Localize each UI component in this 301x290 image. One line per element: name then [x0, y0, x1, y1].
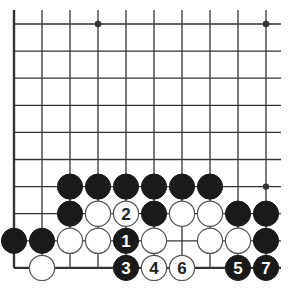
black-stone-disc: [169, 174, 194, 199]
black-stone: 5: [225, 255, 250, 280]
black-stone-disc: [85, 174, 110, 199]
move-number-label: 7: [261, 259, 270, 278]
black-stone: [169, 174, 194, 199]
move-number-label: 2: [121, 205, 130, 224]
white-stone: [225, 228, 250, 253]
white-stone: [169, 201, 194, 226]
stones: 2134657: [1, 174, 278, 281]
black-stone: 7: [253, 255, 278, 280]
move-number-label: 1: [121, 232, 130, 251]
black-stone: [57, 201, 82, 226]
star-point-icon: [263, 183, 269, 189]
black-stone: 1: [113, 228, 138, 253]
star-point-icon: [263, 21, 269, 27]
black-stone: [197, 174, 222, 199]
white-stone: 4: [141, 255, 166, 280]
black-stone: [29, 228, 54, 253]
black-stone-disc: [141, 174, 166, 199]
move-number-label: 6: [177, 259, 186, 278]
go-board: 2134657: [0, 0, 301, 290]
white-stone-disc: [57, 228, 82, 253]
black-stone-disc: [57, 201, 82, 226]
black-stone-disc: [113, 174, 138, 199]
white-stone-disc: [29, 255, 54, 280]
black-stone: [225, 201, 250, 226]
black-stone-disc: [29, 228, 54, 253]
black-stone: [253, 228, 278, 253]
white-stone: [141, 228, 166, 253]
black-stone: [1, 228, 26, 253]
black-stone-disc: [141, 201, 166, 226]
white-stone: [197, 228, 222, 253]
black-stone-disc: [253, 201, 278, 226]
white-stone: [29, 255, 54, 280]
black-stone: [141, 174, 166, 199]
move-number-label: 5: [233, 259, 242, 278]
black-stone-disc: [57, 174, 82, 199]
white-stone-disc: [197, 228, 222, 253]
black-stone: [253, 201, 278, 226]
black-stone: [57, 174, 82, 199]
move-number-label: 4: [149, 259, 159, 278]
black-stone-disc: [1, 228, 26, 253]
white-stone-disc: [141, 228, 166, 253]
white-stone: 6: [169, 255, 194, 280]
white-stone: [197, 201, 222, 226]
black-stone: [141, 201, 166, 226]
black-stone-disc: [253, 228, 278, 253]
black-stone-disc: [225, 201, 250, 226]
white-stone-disc: [85, 201, 110, 226]
white-stone-disc: [225, 228, 250, 253]
black-stone-disc: [197, 174, 222, 199]
black-stone: [85, 174, 110, 199]
white-stone-disc: [169, 201, 194, 226]
black-stone: [113, 174, 138, 199]
white-stone: [85, 228, 110, 253]
white-stone: [85, 201, 110, 226]
move-number-label: 3: [121, 259, 130, 278]
star-point-icon: [95, 21, 101, 27]
white-stone: 2: [113, 201, 138, 226]
white-stone: [57, 228, 82, 253]
black-stone: 3: [113, 255, 138, 280]
white-stone-disc: [85, 228, 110, 253]
white-stone-disc: [197, 201, 222, 226]
